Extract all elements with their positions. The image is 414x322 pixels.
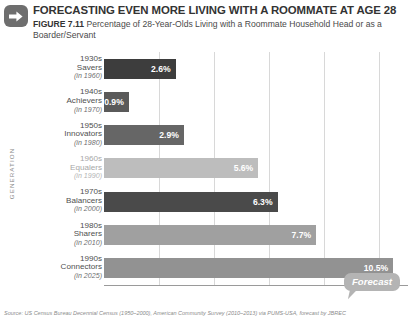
category-label: 1950sInnovators(in 1980) xyxy=(10,122,102,148)
category-year: (in 2010) xyxy=(10,239,102,248)
category-label: 1980sSharers(in 2010) xyxy=(10,222,102,248)
bar-row: 1930sSavers(in 1960)2.6% xyxy=(0,52,414,85)
figure-subtitle: FIGURE 7.11 Percentage of 28-Year-Olds L… xyxy=(33,19,409,41)
figure-header: FORECASTING EVEN MORE LIVING WITH A ROOM… xyxy=(0,0,414,4)
bar-row: 1940sAchievers(in 1970)0.9% xyxy=(0,85,414,118)
category-name: Achievers xyxy=(10,97,102,106)
bar-value-label: 2.9% xyxy=(159,130,179,140)
arrow-right-icon xyxy=(4,5,28,27)
bar: 5.6% xyxy=(104,158,258,178)
category-label: 1930sSavers(in 1960) xyxy=(10,55,102,81)
category-year: (in 1990) xyxy=(10,172,102,181)
bar-row: 1970sBalancers(in 2000)6.3% xyxy=(0,185,414,218)
bar: 0.9% xyxy=(104,92,129,112)
bar-value-label: 2.6% xyxy=(151,64,171,74)
category-year: (in 1970) xyxy=(10,106,102,115)
category-year: (in 1960) xyxy=(10,72,102,81)
bar: 6.3% xyxy=(104,192,278,212)
category-label: 1990sConnectors(in 2025) xyxy=(10,255,102,281)
bar: 7.7% xyxy=(104,225,316,245)
category-name: Savers xyxy=(10,64,102,73)
bar: 2.9% xyxy=(104,125,184,145)
forecast-callout: Forecast xyxy=(345,274,399,290)
category-label: 1940sAchievers(in 1970) xyxy=(10,88,102,114)
source-note: Source: US Census Bureau Decennial Censu… xyxy=(4,310,412,316)
figure-number: FIGURE 7.11 xyxy=(33,19,84,29)
bar: 2.6% xyxy=(104,59,176,79)
page-title: FORECASTING EVEN MORE LIVING WITH A ROOM… xyxy=(33,4,411,16)
category-year: (in 1980) xyxy=(10,139,102,148)
figure-caption: Percentage of 28-Year-Olds Living with a… xyxy=(33,19,382,40)
bar-value-label: 5.6% xyxy=(234,163,254,173)
category-label: 1970sBalancers(in 2000) xyxy=(10,188,102,214)
arrow-right-glyph xyxy=(9,11,23,22)
category-name: Connectors xyxy=(10,263,102,272)
category-name: Equalers xyxy=(10,164,102,173)
forecast-callout-tail xyxy=(348,288,357,300)
bar-value-label: 10.5% xyxy=(364,263,388,273)
category-year: (in 2025) xyxy=(10,272,102,281)
category-name: Sharers xyxy=(10,230,102,239)
bar-value-label: 7.7% xyxy=(292,230,312,240)
category-name: Balancers xyxy=(10,197,102,206)
bar-value-label: 0.9% xyxy=(104,97,124,107)
bar-row: 1980sSharers(in 2010)7.7% xyxy=(0,218,414,251)
bar-row: 1950sInnovators(in 1980)2.9% xyxy=(0,119,414,152)
bar-value-label: 6.3% xyxy=(253,197,273,207)
category-label: 1960sEqualers(in 1990) xyxy=(10,155,102,181)
category-year: (in 2000) xyxy=(10,205,102,214)
plot-area: GENERATION 1930sSavers(in 1960)2.6%1940s… xyxy=(0,52,414,288)
bar-row: 1960sEqualers(in 1990)5.6% xyxy=(0,152,414,185)
figure-root: FORECASTING EVEN MORE LIVING WITH A ROOM… xyxy=(0,0,414,322)
bar-rows: 1930sSavers(in 1960)2.6%1940sAchievers(i… xyxy=(0,52,414,285)
category-name: Innovators xyxy=(10,130,102,139)
